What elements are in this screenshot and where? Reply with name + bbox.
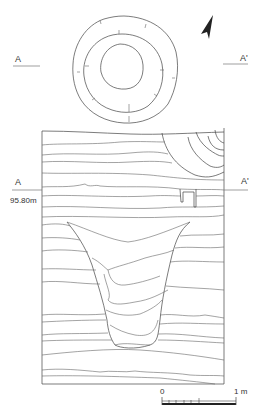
drawing-canvas [0,0,261,414]
plan-inner-outline [101,44,143,89]
plan-label-a-prime: A' [240,54,248,63]
scale-bar [162,397,236,405]
plan-label-a: A [15,55,21,64]
pit-outline [67,222,190,348]
plan-middle-outline [84,34,163,112]
plan-view [73,16,178,123]
section-label-a: A [15,178,21,187]
plan-outer-outline [73,16,178,123]
scale-end-label: 1 m [234,388,247,396]
north-arrow-icon [201,15,213,39]
elevation-label: 95.80m [10,197,37,205]
plan-hachures [77,20,175,122]
scale-start-label: 0 [160,388,164,396]
section-view [42,128,224,384]
section-label-a-prime: A' [241,177,249,186]
